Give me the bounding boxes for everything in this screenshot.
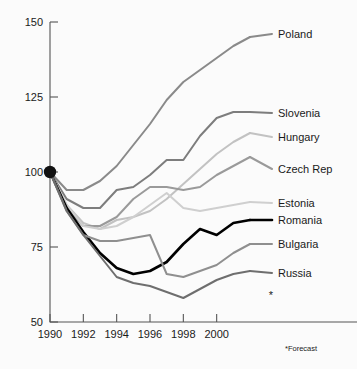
series-leader-lines [250, 34, 272, 273]
leader-line-slovenia [250, 112, 272, 113]
x-tick-label: 1992 [71, 328, 95, 340]
line-chart: 1501251007550 199019921994199619982000 P… [0, 0, 357, 369]
series-label-romania: Romania [278, 214, 323, 226]
y-tick-label: 75 [31, 241, 43, 253]
leader-line-estonia [250, 202, 272, 203]
series-line-hungary [50, 133, 250, 229]
x-tick-label: 1996 [138, 328, 162, 340]
x-tick-label: 1990 [38, 328, 62, 340]
y-tick-label: 150 [25, 16, 43, 28]
leader-line-russia [250, 271, 272, 273]
series-label-czech-rep: Czech Rep [278, 163, 332, 175]
series-line-slovenia [50, 112, 250, 208]
series-line-estonia [50, 172, 250, 229]
x-tick-label: 2000 [204, 328, 228, 340]
series-labels: PolandSloveniaHungaryCzech RepEstoniaRom… [278, 28, 332, 279]
series-label-poland: Poland [278, 28, 312, 40]
x-tick-label: 1994 [104, 328, 128, 340]
x-axis-ticks [50, 314, 217, 322]
series-label-russia: Russia [278, 267, 313, 279]
series-line-poland [50, 37, 250, 190]
forecast-asterisk: * [269, 289, 274, 301]
series-label-slovenia: Slovenia [278, 107, 321, 119]
index-base-dot [44, 166, 56, 178]
y-tick-label: 125 [25, 91, 43, 103]
series-line-czech-rep [50, 157, 250, 226]
forecast-footnote: *Forecast [285, 344, 318, 353]
series-label-hungary: Hungary [278, 131, 320, 143]
leader-line-poland [250, 34, 272, 37]
annotations: **Forecast [269, 289, 318, 353]
leader-line-hungary [250, 133, 272, 137]
series-lines [50, 37, 250, 298]
chart-canvas: 1501251007550 199019921994199619982000 P… [0, 0, 357, 369]
series-label-estonia: Estonia [278, 197, 316, 209]
leader-line-czech-rep [250, 157, 272, 169]
index-base-marker [44, 166, 56, 178]
y-tick-label: 100 [25, 166, 43, 178]
series-label-bulgaria: Bulgaria [278, 238, 319, 250]
x-axis-tick-labels: 199019921994199619982000 [38, 328, 229, 340]
x-tick-label: 1998 [171, 328, 195, 340]
y-tick-label: 50 [31, 316, 43, 328]
y-axis-tick-labels: 1501251007550 [25, 16, 43, 328]
